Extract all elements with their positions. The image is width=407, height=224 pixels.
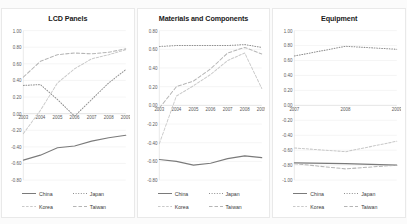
- legend-item-china[interactable]: China: [22, 191, 53, 197]
- y-axis-tick-label: -0.80: [283, 163, 293, 168]
- series-line-taiwan: [23, 49, 125, 77]
- chart-title: Equipment: [273, 14, 405, 23]
- series-line-china: [159, 156, 261, 165]
- y-axis-tick-label: 0.80: [13, 45, 22, 50]
- x-axis-tick-label: 2009: [257, 107, 266, 112]
- series-line-china: [295, 163, 397, 165]
- legend-label-korea: Korea: [310, 204, 324, 210]
- legend-item-korea[interactable]: Korea: [293, 204, 324, 210]
- legend-label-japan: Japan: [226, 191, 240, 197]
- legend-label-taiwan: Taiwan: [361, 204, 377, 210]
- legend-item-china[interactable]: China: [158, 191, 189, 197]
- legend-label-china: China: [310, 191, 324, 197]
- y-axis-tick-label: 0.80: [148, 28, 157, 33]
- y-axis-tick-label: -0.40: [147, 140, 157, 145]
- legend-swatch-korea: [293, 204, 307, 209]
- y-axis-tick-label: 1.00: [284, 28, 293, 33]
- y-axis-tick-label: -0.40: [11, 145, 21, 150]
- legend-swatch-china: [22, 191, 36, 196]
- legend-item-taiwan[interactable]: Taiwan: [73, 204, 106, 210]
- legend-swatch-taiwan: [73, 204, 87, 209]
- legend-item-taiwan[interactable]: Taiwan: [344, 204, 377, 210]
- y-axis-tick-label: 0.20: [284, 88, 293, 93]
- legend-swatch-korea: [158, 204, 172, 209]
- line-chart-svg: 1.000.800.600.400.200.00-0.20-0.40-0.60-…: [4, 26, 130, 187]
- x-axis-tick-label: 2008: [104, 115, 114, 120]
- legend-item-japan[interactable]: Japan: [344, 191, 375, 197]
- legend-label-china: China: [39, 191, 53, 197]
- legend-swatch-japan: [344, 191, 358, 196]
- x-axis-tick-label: 2005: [53, 115, 63, 120]
- x-axis-tick-label: 2009: [392, 107, 401, 112]
- y-axis-tick-label: 0.40: [284, 73, 293, 78]
- y-axis-tick-label: 0.20: [13, 95, 22, 100]
- x-axis-tick-label: 2003: [18, 115, 28, 120]
- chart-panel-lcd-panels: LCD Panels 1.000.800.600.400.200.00-0.20…: [1, 8, 135, 218]
- y-axis-tick-label: -0.40: [283, 133, 293, 138]
- legend-label-taiwan: Taiwan: [226, 204, 242, 210]
- x-axis-tick-label: 2007: [87, 115, 97, 120]
- y-axis-tick-label: 0.60: [13, 61, 22, 66]
- chart-legend: China Japan Korea Taiwan: [138, 187, 270, 217]
- y-axis-tick-label: -0.80: [11, 178, 21, 183]
- plot-area: 1.000.800.600.400.200.00-0.20-0.40-0.60-…: [275, 26, 401, 187]
- chart-panel-materials-and-components: Materials and Components 0.800.600.400.2…: [137, 8, 271, 218]
- y-axis-tick-label: -1.00: [283, 178, 293, 183]
- legend-label-japan: Japan: [361, 191, 375, 197]
- chart-legend: China Japan Korea Taiwan: [2, 187, 134, 217]
- y-axis-tick-label: 0.60: [284, 58, 293, 63]
- legend-label-korea: Korea: [39, 204, 53, 210]
- y-axis-tick-label: 0.40: [13, 78, 22, 83]
- legend-item-japan[interactable]: Japan: [73, 191, 104, 197]
- y-axis-tick-label: -0.20: [11, 128, 21, 133]
- series-line-korea: [23, 50, 125, 134]
- legend-item-korea[interactable]: Korea: [158, 204, 189, 210]
- x-axis-tick-label: 2004: [171, 107, 181, 112]
- legend-swatch-china: [293, 191, 307, 196]
- line-chart-svg: 0.800.600.400.200.00-0.20-0.40-0.60-0.80…: [140, 26, 266, 187]
- x-axis-tick-label: 2005: [188, 107, 198, 112]
- chart-legend: China Japan Korea Taiwan: [273, 187, 405, 217]
- y-axis-tick-label: -0.60: [147, 159, 157, 164]
- legend-item-japan[interactable]: Japan: [209, 191, 240, 197]
- y-axis-tick-label: 0.40: [148, 66, 157, 71]
- series-line-japan: [23, 70, 125, 117]
- y-axis-tick-label: 0.60: [148, 47, 157, 52]
- x-axis-tick-label: 2007: [222, 107, 232, 112]
- legend-swatch-korea: [22, 204, 36, 209]
- legend-swatch-japan: [73, 191, 87, 196]
- legend-item-china[interactable]: China: [293, 191, 324, 197]
- y-axis-tick-label: -0.20: [283, 118, 293, 123]
- legend-item-korea[interactable]: Korea: [22, 204, 53, 210]
- chart-title: LCD Panels: [2, 14, 134, 23]
- y-axis-tick-label: -0.20: [147, 122, 157, 127]
- y-axis-tick-label: -0.80: [147, 178, 157, 183]
- plot-area: 0.800.600.400.200.00-0.20-0.40-0.60-0.80…: [140, 26, 266, 187]
- legend-label-korea: Korea: [175, 204, 189, 210]
- y-axis-tick-label: -0.60: [11, 161, 21, 166]
- series-line-korea: [159, 53, 261, 144]
- x-axis-tick-label: 2004: [35, 115, 45, 120]
- y-axis-tick-label: 1.00: [13, 28, 22, 33]
- series-line-japan: [159, 45, 261, 48]
- line-chart-svg: 1.000.800.600.400.200.00-0.20-0.40-0.60-…: [275, 26, 401, 187]
- chart-panel-equipment: Equipment 1.000.800.600.400.200.00-0.20-…: [272, 8, 406, 218]
- x-axis-tick-label: 2006: [205, 107, 215, 112]
- legend-swatch-taiwan: [344, 204, 358, 209]
- x-axis-tick-label: 2008: [239, 107, 249, 112]
- figure-root: LCD Panels 1.000.800.600.400.200.00-0.20…: [0, 0, 407, 224]
- series-line-china: [23, 135, 125, 160]
- x-axis-tick-label: 2008: [341, 107, 351, 112]
- chart-title: Materials and Components: [138, 14, 270, 23]
- y-axis-tick-label: 0.80: [284, 43, 293, 48]
- x-axis-tick-label: 2007: [290, 107, 300, 112]
- legend-item-taiwan[interactable]: Taiwan: [209, 204, 242, 210]
- legend-label-taiwan: Taiwan: [90, 204, 106, 210]
- legend-swatch-china: [158, 191, 172, 196]
- plot-area: 1.000.800.600.400.200.00-0.20-0.40-0.60-…: [4, 26, 130, 187]
- y-axis-tick-label: -0.60: [283, 148, 293, 153]
- legend-label-japan: Japan: [90, 191, 104, 197]
- legend-swatch-japan: [209, 191, 223, 196]
- x-axis-tick-label: 2009: [121, 115, 130, 120]
- series-line-japan: [295, 46, 397, 56]
